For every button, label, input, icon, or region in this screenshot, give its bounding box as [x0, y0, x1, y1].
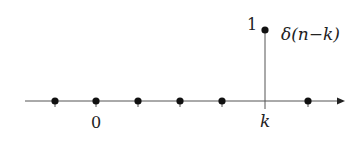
shift-label: k — [260, 111, 270, 131]
amplitude-label: 1 — [247, 15, 257, 34]
sample-dot — [304, 97, 311, 104]
sample-dot — [51, 97, 58, 104]
impulse-dot — [261, 26, 268, 33]
sample-dot — [92, 97, 99, 104]
origin-label: 0 — [91, 113, 101, 132]
sample-dot — [134, 97, 141, 104]
sample-dot — [176, 97, 183, 104]
sample-dot — [218, 97, 225, 104]
axis-arrowhead-icon — [337, 98, 345, 105]
function-label: δ(n−k) — [281, 24, 340, 44]
impulse-diagram — [0, 0, 360, 142]
sample-dots — [51, 26, 311, 104]
